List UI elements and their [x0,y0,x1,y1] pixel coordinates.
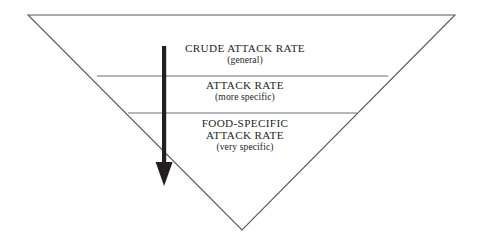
tier-food-specific-attack-rate: FOOD-SPECIFIC ATTACK RATE (very specific… [160,117,330,153]
tier-attack-label: ATTACK RATE [160,79,330,91]
tier-label-group: CRUDE ATTACK RATE (general) ATTACK RATE … [0,0,483,244]
tier-crude-sublabel: (general) [160,55,330,65]
figure-canvas: CRUDE ATTACK RATE (general) ATTACK RATE … [0,0,483,244]
tier-crude-attack-rate: CRUDE ATTACK RATE (general) [160,42,330,65]
tier-food-label-line2: ATTACK RATE [160,129,330,141]
tier-attack-rate: ATTACK RATE (more specific) [160,79,330,102]
tier-food-sublabel: (very specific) [160,142,330,152]
tier-crude-label: CRUDE ATTACK RATE [160,42,330,54]
tier-attack-sublabel: (more specific) [160,92,330,102]
tier-food-label-line1: FOOD-SPECIFIC [160,117,330,129]
